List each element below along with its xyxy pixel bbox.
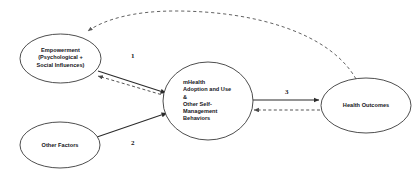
edge-empowerment-to-mhealth xyxy=(98,71,166,93)
edge-label-3: 3 xyxy=(285,88,289,96)
node-empowerment[interactable] xyxy=(20,34,101,83)
diagram-canvas: Empowerment (Psychological + Social Infl… xyxy=(0,0,419,191)
edge-label-2: 2 xyxy=(131,139,135,147)
edge-mhealth-to-empowerment xyxy=(98,76,166,96)
node-mhealth[interactable] xyxy=(163,62,253,140)
edge-other-factors-to-mhealth xyxy=(97,113,167,137)
node-health-outcomes[interactable] xyxy=(321,78,411,133)
diagram-svg xyxy=(0,0,419,191)
edge-label-1: 1 xyxy=(131,52,135,60)
node-other-factors[interactable] xyxy=(20,122,100,168)
